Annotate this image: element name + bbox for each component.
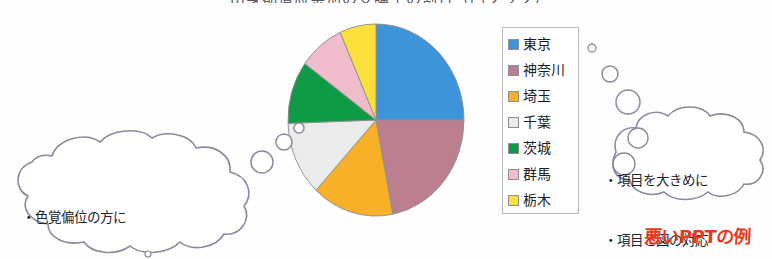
- legend-swatch-icon: [508, 195, 519, 206]
- legend-item[interactable]: 千葉: [508, 109, 578, 135]
- legend-item-label: 埼玉: [523, 89, 551, 103]
- slide-title: 出身都道府県別の受講生の割合（円グラフ）: [180, 0, 600, 3]
- legend-swatch-icon: [508, 65, 519, 76]
- legend-swatch-icon: [508, 117, 519, 128]
- pie-chart[interactable]: [285, 20, 467, 220]
- legend-item[interactable]: 群馬: [508, 161, 578, 187]
- legend-item[interactable]: 栃木: [508, 187, 578, 213]
- right-bubble-trail-3: [616, 90, 640, 114]
- left-bubble-trail-3: [251, 151, 273, 173]
- bad-ppt-caption: 悪いPPTの例: [643, 222, 752, 248]
- right-bubble-trail-1: [588, 44, 596, 52]
- legend-swatch-icon: [508, 39, 519, 50]
- left-bubble-line-1: ・色覚偏位の方に: [22, 208, 177, 227]
- legend-item-label: 茨城: [523, 141, 551, 155]
- legend-item-label: 神奈川: [523, 63, 565, 77]
- legend-item[interactable]: 茨城: [508, 135, 578, 161]
- legend-item-label: 千葉: [523, 115, 551, 129]
- legend-swatch-icon: [508, 91, 519, 102]
- chart-legend[interactable]: 東京神奈川埼玉千葉茨城群馬栃木: [502, 27, 579, 214]
- legend-item[interactable]: 埼玉: [508, 83, 578, 109]
- legend-item-label: 群馬: [523, 167, 551, 181]
- left-bubble-trail-2: [276, 134, 292, 150]
- pie-slice-group[interactable]: [288, 24, 464, 216]
- left-bubble-text: ・色覚偏位の方に 気をつけて！！ ・白黒にすると、分らない 可能性が・・・: [22, 170, 177, 259]
- legend-item-label: 東京: [523, 37, 551, 51]
- pie-slice[interactable]: [376, 24, 464, 120]
- legend-item-label: 栃木: [523, 193, 551, 207]
- right-bubble-trail-2: [602, 66, 618, 82]
- pie-chart-svg: [285, 20, 467, 220]
- legend-item[interactable]: 東京: [508, 31, 578, 57]
- legend-swatch-icon: [508, 143, 519, 154]
- left-bubble-trail-1: [294, 123, 304, 133]
- legend-item[interactable]: 神奈川: [508, 57, 578, 83]
- legend-swatch-icon: [508, 169, 519, 180]
- right-bubble-line-1: ・項目を大きめに: [604, 170, 709, 190]
